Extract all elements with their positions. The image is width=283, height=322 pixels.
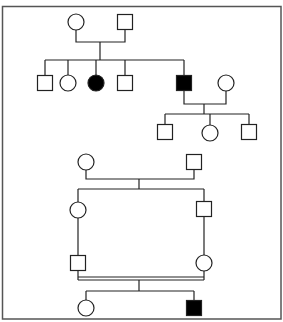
female-circle-icon xyxy=(60,75,76,91)
male-square-icon xyxy=(187,155,202,170)
female-circle-icon xyxy=(218,75,234,91)
male-square-icon xyxy=(158,125,173,140)
male-square-icon xyxy=(118,76,133,91)
mating-line-bottom-I xyxy=(86,170,194,179)
male-square-icon xyxy=(242,125,257,140)
diagram-frame xyxy=(3,7,282,320)
affected-female-circle-icon xyxy=(88,75,104,91)
female-circle-icon xyxy=(196,255,212,271)
male-square-icon xyxy=(118,15,133,30)
male-square-icon xyxy=(197,202,212,217)
female-circle-icon xyxy=(78,300,94,316)
female-circle-icon xyxy=(202,125,218,141)
female-circle-icon xyxy=(68,14,84,30)
male-square-icon xyxy=(38,76,53,91)
female-circle-icon xyxy=(70,202,86,218)
mating-line-top-I xyxy=(76,30,125,42)
affected-male-square-icon xyxy=(187,301,202,316)
male-square-icon xyxy=(71,256,86,271)
affected-male-square-icon xyxy=(177,76,192,91)
pedigree-canvas xyxy=(0,0,283,322)
pedigree-diagram xyxy=(0,0,283,322)
female-circle-icon xyxy=(78,154,94,170)
individuals xyxy=(38,14,257,316)
mating-line-top-II xyxy=(184,91,226,104)
